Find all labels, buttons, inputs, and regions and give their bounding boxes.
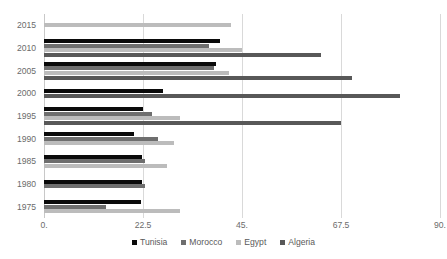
legend-swatch-morocco: [181, 240, 186, 245]
bar-egypt-1985: [44, 164, 167, 168]
gridline-90: [440, 14, 441, 218]
x-axis: 0.22.545.67.590.: [44, 221, 440, 235]
bar-egypt-1995: [44, 116, 180, 120]
legend-label-tunisia: Tunisia: [140, 238, 167, 247]
legend-item-tunisia[interactable]: Tunisia: [132, 238, 167, 247]
bar-morocco-1995: [44, 112, 152, 116]
legend-item-algeria[interactable]: Algeria: [280, 238, 315, 247]
bar-tunisia-1985: [44, 155, 142, 159]
category-group-2015: [44, 14, 440, 37]
legend-swatch-tunisia: [132, 240, 137, 245]
bar-morocco-2010: [44, 44, 209, 48]
category-group-1975: [44, 195, 440, 218]
legend-swatch-algeria: [280, 240, 285, 245]
bar-tunisia-1975: [44, 200, 141, 204]
category-group-2000: [44, 82, 440, 105]
plot-area: [44, 14, 440, 218]
x-axis-tick-0: 0.: [40, 221, 47, 230]
x-axis-tick-3: 67.5: [333, 221, 350, 230]
x-axis-tick-4: 90.: [434, 221, 446, 230]
legend-item-morocco[interactable]: Morocco: [181, 238, 222, 247]
bar-algeria-2005: [44, 76, 352, 80]
legend-swatch-egypt: [236, 240, 241, 245]
bar-morocco-1975: [44, 205, 106, 209]
bar-morocco-1980: [44, 184, 145, 188]
chart-legend: TunisiaMoroccoEgyptAlgeria: [0, 238, 447, 247]
category-group-1990: [44, 127, 440, 150]
bar-algeria-2010: [44, 53, 321, 57]
bar-algeria-2000: [44, 94, 400, 98]
category-group-2010: [44, 37, 440, 60]
bar-morocco-1985: [44, 159, 145, 163]
y-axis-tick-2010: 2010: [0, 44, 36, 53]
bar-tunisia-1980: [44, 180, 142, 184]
category-group-1995: [44, 105, 440, 128]
bar-tunisia-2000: [44, 89, 163, 93]
bar-egypt-1975: [44, 209, 180, 213]
y-axis-tick-1990: 1990: [0, 134, 36, 143]
y-axis-tick-1980: 1980: [0, 180, 36, 189]
bar-egypt-2015: [44, 23, 231, 27]
bar-egypt-2010: [44, 48, 242, 52]
y-axis-tick-1985: 1985: [0, 157, 36, 166]
legend-label-egypt: Egypt: [244, 238, 266, 247]
y-axis-tick-2005: 2005: [0, 66, 36, 75]
bar-chart: 201520102005200019951990198519801975 0.2…: [0, 0, 447, 259]
y-axis-tick-1995: 1995: [0, 112, 36, 121]
x-axis-tick-1: 22.5: [135, 221, 152, 230]
x-axis-tick-2: 45.: [236, 221, 248, 230]
y-axis-tick-1975: 1975: [0, 202, 36, 211]
y-axis: 201520102005200019951990198519801975: [0, 14, 40, 218]
bar-egypt-2005: [44, 71, 229, 75]
legend-label-algeria: Algeria: [288, 238, 315, 247]
bar-tunisia-1990: [44, 132, 134, 136]
category-group-2005: [44, 59, 440, 82]
legend-label-morocco: Morocco: [189, 238, 222, 247]
bar-tunisia-2005: [44, 62, 216, 66]
bar-egypt-1990: [44, 141, 174, 145]
bar-morocco-2005: [44, 66, 214, 70]
bar-tunisia-2010: [44, 39, 220, 43]
y-axis-tick-2000: 2000: [0, 89, 36, 98]
y-axis-tick-2015: 2015: [0, 21, 36, 30]
bar-tunisia-1995: [44, 107, 143, 111]
legend-item-egypt[interactable]: Egypt: [236, 238, 266, 247]
bar-morocco-1990: [44, 137, 158, 141]
bar-algeria-1995: [44, 121, 341, 125]
category-group-1980: [44, 173, 440, 196]
category-group-1985: [44, 150, 440, 173]
